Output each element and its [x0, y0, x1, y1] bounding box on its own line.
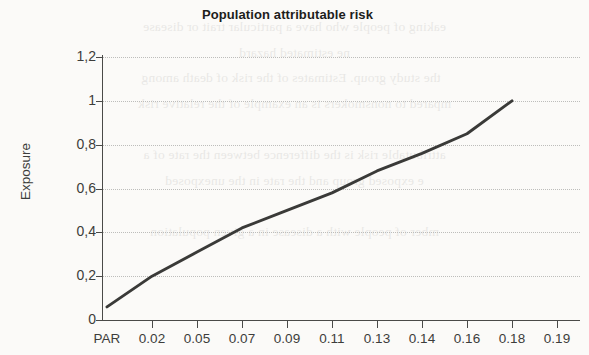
series-line — [107, 101, 512, 307]
series-line-layer — [0, 0, 589, 355]
chart-figure: eaking of people who have a particular t… — [0, 0, 589, 355]
